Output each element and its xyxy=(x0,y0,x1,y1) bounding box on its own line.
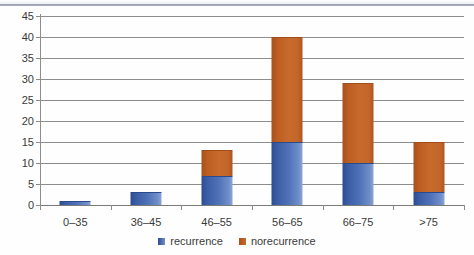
bar-group[interactable] xyxy=(181,16,252,205)
y-axis-tick-label: 20 xyxy=(4,116,34,127)
bar-segment-recurrence[interactable] xyxy=(272,142,303,205)
bar-stack[interactable] xyxy=(342,83,373,205)
bar-segment-recurrence[interactable] xyxy=(342,163,373,205)
x-axis-tick-mark xyxy=(111,205,112,210)
bar-segment-norecurrence[interactable] xyxy=(272,37,303,142)
page-top-rule xyxy=(0,4,474,6)
legend-item-norecurrence[interactable]: norecurrence xyxy=(239,236,316,247)
bar-segment-norecurrence[interactable] xyxy=(413,142,444,192)
chart-figure: 454035302520151050 0–3536–4546–5556–6566… xyxy=(0,0,474,255)
legend-label: recurrence xyxy=(170,236,223,247)
x-axis-tick-label: 66–75 xyxy=(323,216,394,228)
bar-group[interactable] xyxy=(393,16,464,205)
x-axis-tick-mark xyxy=(181,205,182,210)
y-axis-tick-label: 10 xyxy=(4,158,34,169)
y-axis-tick-labels: 454035302520151050 xyxy=(0,0,34,255)
bar-segment-recurrence[interactable] xyxy=(201,176,232,205)
bar-segment-recurrence[interactable] xyxy=(60,201,91,205)
y-axis-tick-label: 30 xyxy=(4,74,34,85)
x-axis-tick-mark xyxy=(252,205,253,210)
bar-group[interactable] xyxy=(40,16,111,205)
legend-item-recurrence[interactable]: recurrence xyxy=(158,236,223,247)
bar-group[interactable] xyxy=(111,16,182,205)
bar-segment-norecurrence[interactable] xyxy=(342,83,373,163)
y-axis-tick-label: 0 xyxy=(4,200,34,211)
bar-stack[interactable] xyxy=(201,150,232,205)
bar-segment-norecurrence[interactable] xyxy=(201,150,232,175)
x-axis-tick-mark xyxy=(464,205,465,210)
bar-group[interactable] xyxy=(252,16,323,205)
bar-segment-recurrence[interactable] xyxy=(413,192,444,205)
y-axis-tick-label: 15 xyxy=(4,137,34,148)
legend-swatch-icon xyxy=(239,238,246,245)
x-axis-tick-label: 56–65 xyxy=(252,216,323,228)
bar-stack[interactable] xyxy=(60,201,91,205)
bar-stack[interactable] xyxy=(272,37,303,205)
x-axis-tick-mark xyxy=(323,205,324,210)
bar-group[interactable] xyxy=(323,16,394,205)
chart-legend: recurrencenorecurrence xyxy=(0,236,474,247)
x-axis-tick-label: 36–45 xyxy=(111,216,182,228)
x-axis-tick-mark xyxy=(40,205,41,210)
y-axis-tick-label: 5 xyxy=(4,179,34,190)
bar-segment-recurrence[interactable] xyxy=(130,192,161,205)
x-axis-tick-label: 0–35 xyxy=(40,216,111,228)
bar-stack[interactable] xyxy=(130,192,161,205)
plot-area xyxy=(40,16,464,205)
y-axis-tick-label: 40 xyxy=(4,32,34,43)
x-axis-tick-mark xyxy=(393,205,394,210)
legend-swatch-icon xyxy=(158,238,165,245)
y-axis-tick-label: 25 xyxy=(4,95,34,106)
y-axis-tick-label: 35 xyxy=(4,53,34,64)
x-axis-tick-label: 46–55 xyxy=(181,216,252,228)
legend-label: norecurrence xyxy=(251,236,316,247)
y-axis-tick-label: 45 xyxy=(4,11,34,22)
bar-stack[interactable] xyxy=(413,142,444,205)
x-axis-tick-label: >75 xyxy=(393,216,464,228)
